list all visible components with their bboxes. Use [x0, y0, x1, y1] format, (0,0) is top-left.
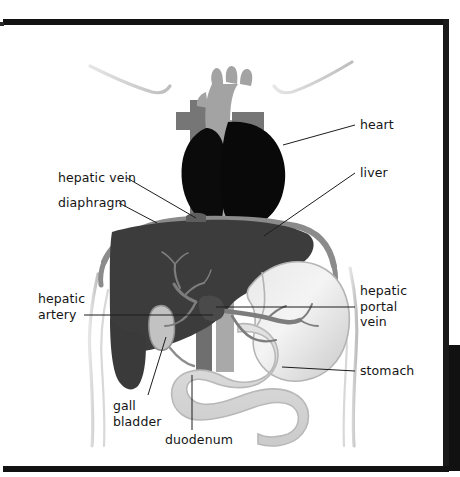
- cystic-duct: [170, 348, 194, 366]
- label-duodenum[interactable]: duodenum: [165, 432, 233, 448]
- label-gall-bladder[interactable]: gall bladder: [113, 398, 161, 429]
- label-stomach[interactable]: stomach: [360, 363, 414, 379]
- label-heart[interactable]: heart: [360, 117, 394, 133]
- page-frame-bottom: [3, 466, 449, 472]
- label-hepatic-vein[interactable]: hepatic vein: [58, 170, 136, 186]
- book-gutter-shadow: [449, 345, 460, 471]
- label-diaphragm[interactable]: diaphragm: [58, 195, 127, 211]
- label-hepatic-artery[interactable]: hepatic artery: [38, 291, 85, 322]
- heart-shape-right: [221, 122, 286, 228]
- label-liver[interactable]: liver: [360, 165, 388, 181]
- label-hepatic-portal-vein[interactable]: hepatic portal vein: [360, 283, 407, 330]
- leader-line-heart: [283, 125, 355, 145]
- gall-bladder-shape: [149, 306, 175, 351]
- page-frame-left-edge: [0, 22, 4, 26]
- page-frame-top: [3, 19, 449, 25]
- anatomy-illustration: [0, 0, 460, 477]
- figure-page: heart liver hepatic vein diaphragm hepat…: [0, 0, 460, 477]
- diaphragm-tail-left: [101, 262, 104, 285]
